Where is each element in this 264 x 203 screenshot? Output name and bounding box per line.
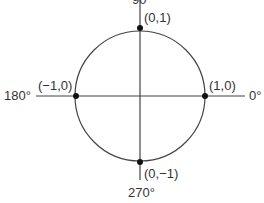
point-right	[202, 93, 208, 99]
point-label-bottom: (0,−1)	[144, 166, 178, 181]
point-top	[137, 25, 143, 31]
point-label-left: (−1,0)	[38, 78, 72, 93]
angle-label-top: 90°	[132, 0, 152, 7]
point-bottom	[137, 159, 143, 165]
angle-label-right: 0°	[249, 88, 261, 103]
unit-circle-diagram: (0,1) (−1,0) (1,0) (0,−1) 90° 180° 0° 27…	[0, 0, 264, 203]
angle-label-left: 180°	[4, 88, 31, 103]
point-left	[73, 93, 79, 99]
point-label-right: (1,0)	[209, 78, 236, 93]
point-label-top: (0,1)	[144, 10, 171, 25]
angle-label-bottom: 270°	[128, 185, 155, 200]
